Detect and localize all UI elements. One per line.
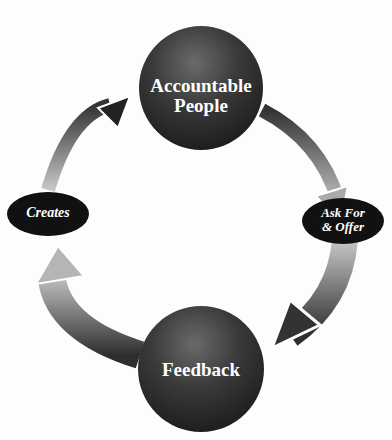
arrow-to-creates xyxy=(52,280,140,355)
label-line: Accountable xyxy=(140,76,262,96)
arrow-to-ask xyxy=(262,110,338,200)
label-line: People xyxy=(140,96,262,116)
arrow-to-accountable xyxy=(48,105,110,190)
label-line: Ask For xyxy=(302,206,384,220)
accountable-label: Accountable People xyxy=(140,76,262,116)
arrowhead-creates xyxy=(36,246,84,284)
feedback-label: Feedback xyxy=(140,360,262,380)
ask-label: Ask For & Offer xyxy=(302,206,384,233)
label-line: & Offer xyxy=(302,220,384,234)
creates-label: Creates xyxy=(7,206,89,221)
